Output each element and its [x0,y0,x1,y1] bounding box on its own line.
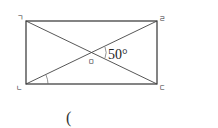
answer-paren: ( [66,109,71,127]
intersection-label: ㅁ [88,58,94,66]
vertex-label-top-left: ㄱ [17,14,23,22]
vertex-label-bottom-right: ㄷ [159,84,165,92]
angle-arc-center [105,47,106,58]
vertex-label-top-right: ㄹ [159,15,165,23]
angle-arc-bottom-left [46,75,48,84]
rectangle-diagram: ㄱ ㄹ ㄴ ㄷ ㅁ 50° ( [0,0,218,128]
vertex-label-bottom-left: ㄴ [16,84,22,92]
angle-label: 50° [108,47,128,62]
